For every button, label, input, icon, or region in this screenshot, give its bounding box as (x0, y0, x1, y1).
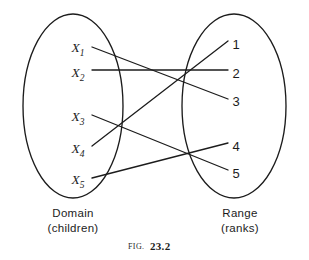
domain-subtitle: (children) (48, 222, 99, 234)
range-title: Range (222, 207, 257, 219)
domain-label-group: X1X2X3X4X5 (71, 40, 85, 190)
domain-element-X3: X3 (71, 109, 85, 127)
range-element-2: 2 (232, 66, 239, 81)
range-label-group: 12345 (232, 37, 239, 181)
mapping-line-X1-to-3 (92, 47, 228, 99)
mapping-edge-group (92, 41, 228, 178)
domain-element-subscript: 3 (79, 117, 85, 127)
figure-container: X1X2X3X4X5 12345 Domain (children) Range… (0, 0, 309, 260)
domain-element-X2: X2 (71, 65, 85, 83)
domain-element-X5: X5 (71, 172, 85, 190)
domain-element-subscript: 5 (80, 180, 85, 190)
range-element-1: 1 (232, 37, 239, 52)
mapping-line-X5-to-4 (92, 143, 228, 178)
figure-caption-prefix: FIG. (128, 242, 145, 251)
domain-element-subscript: 2 (80, 73, 85, 83)
domain-element-X4: X4 (71, 141, 85, 159)
range-element-3: 3 (232, 94, 239, 109)
mapping-diagram: X1X2X3X4X5 12345 Domain (children) Range… (0, 0, 309, 260)
domain-title: Domain (52, 207, 93, 219)
domain-element-subscript: 1 (80, 48, 85, 58)
range-subtitle: (ranks) (221, 222, 259, 234)
range-element-5: 5 (232, 166, 239, 181)
domain-element-subscript: 4 (80, 149, 85, 159)
mapping-line-X4-to-1 (92, 41, 228, 146)
range-element-4: 4 (232, 139, 239, 154)
domain-element-X1: X1 (71, 40, 85, 58)
figure-caption-number: 23.2 (150, 240, 171, 252)
